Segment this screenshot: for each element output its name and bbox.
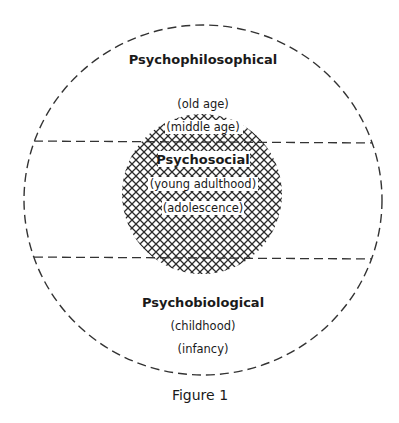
stage-young-adulthood: (young adulthood): [150, 177, 256, 191]
figure-caption: Figure 1: [172, 387, 228, 403]
region-title-psychobiological: Psychobiological: [142, 295, 264, 310]
stage-middle-age: (middle age): [166, 120, 239, 134]
stage-childhood: (childhood): [171, 319, 236, 333]
stage-infancy: (infancy): [178, 342, 229, 356]
stage-adolescence: (adolescence): [163, 201, 244, 215]
psychosocial-hatched-core: [122, 114, 282, 274]
region-title-psychosocial: Psychosocial: [156, 152, 249, 167]
region-title-psychophilosophical: Psychophilosophical: [129, 52, 277, 67]
developmental-stages-diagram: Psychophilosophical (old age) (middle ag…: [0, 0, 399, 423]
stage-old-age: (old age): [177, 97, 229, 111]
